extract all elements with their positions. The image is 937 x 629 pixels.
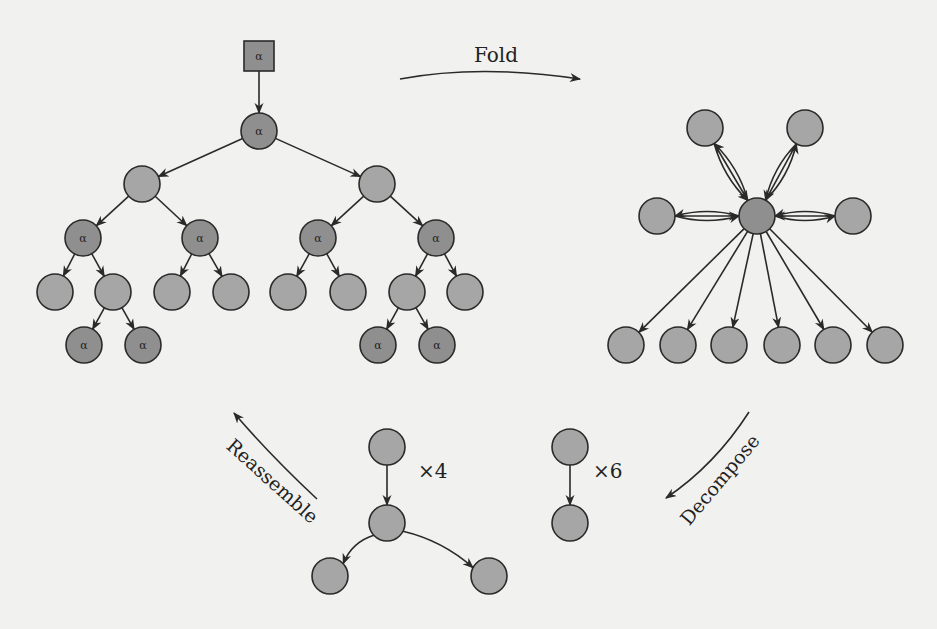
diagram-svg: αααααααααα Fold Reassemble Decompose ×4 … (0, 0, 937, 629)
tree-edge (416, 308, 428, 330)
tree-node: α (300, 220, 336, 256)
star-neighbor-node (639, 198, 675, 234)
tree-edge (155, 196, 187, 225)
alpha-label: α (79, 232, 87, 245)
multiplicity-x4-label: ×4 (418, 459, 447, 483)
tree-node (330, 274, 366, 310)
star-leaf-node (764, 327, 800, 363)
tree-edge (180, 254, 191, 276)
star-edge-out (770, 229, 873, 332)
star-edge-in (766, 144, 797, 200)
star-edge-out (687, 231, 747, 329)
fold-label: Fold (474, 43, 518, 67)
alpha-label: α (314, 232, 322, 245)
star-leaf-node (608, 327, 644, 363)
tree-node (124, 166, 160, 202)
tree-node: α (182, 220, 218, 256)
star-neighbor-node (835, 198, 871, 234)
tree-edge (297, 254, 310, 277)
tree-node (37, 274, 73, 310)
tree-node (447, 274, 483, 310)
tree-edge (93, 308, 105, 329)
decompose-label: Decompose (675, 430, 763, 529)
piece-edge (343, 535, 374, 563)
tree-node (213, 274, 249, 310)
alpha-label: α (433, 339, 441, 352)
tree-node: α (125, 327, 161, 363)
tree-edge (331, 196, 363, 226)
tree-node: α (360, 327, 396, 363)
tree-edge (96, 196, 128, 226)
star-center-node (739, 198, 775, 234)
tree-edge (63, 254, 74, 276)
alpha-label: α (432, 232, 440, 245)
tree-edge (275, 138, 360, 176)
tree-edge (122, 308, 134, 330)
multiplicity-x6-label: ×6 (593, 459, 622, 483)
decompose-arrow: Decompose (666, 412, 764, 529)
alpha-label: α (255, 50, 263, 63)
star-leaf-node (815, 327, 851, 363)
nodes-layer: αααααααααα (37, 41, 903, 594)
tree-node (359, 166, 395, 202)
reassemble-arrow: Reassemble (223, 413, 323, 527)
star-leaf-node (711, 327, 747, 363)
tree-edge (387, 308, 399, 329)
star-edge-in (714, 143, 748, 200)
tree-node: α (418, 220, 454, 256)
tree-node (389, 274, 425, 310)
star-edge-out (733, 234, 753, 328)
star-neighbor-node (687, 110, 723, 146)
reassemble-label: Reassemble (223, 434, 323, 527)
fold-arrow-icon (400, 72, 580, 80)
alpha-label: α (196, 232, 204, 245)
piece-edge (403, 531, 473, 567)
star-leaf-node (660, 327, 696, 363)
tree-edge (390, 196, 422, 226)
star-edge-out (639, 229, 744, 333)
alpha-label: α (80, 339, 88, 352)
star-leaf-node (867, 327, 903, 363)
piece-node (552, 429, 588, 465)
tree-edge (416, 254, 428, 276)
tree-node (154, 274, 190, 310)
alpha-label: α (139, 339, 147, 352)
tree-node (95, 274, 131, 310)
tree-root-square: α (244, 41, 274, 71)
alpha-label: α (374, 339, 382, 352)
tree-node: α (65, 220, 101, 256)
star-neighbor-node (787, 110, 823, 146)
tree-node: α (419, 327, 455, 363)
piece-node (369, 505, 405, 541)
figure-canvas: αααααααααα Fold Reassemble Decompose ×4 … (0, 0, 937, 629)
piece-node (471, 558, 507, 594)
fold-arrow: Fold (400, 43, 580, 79)
tree-edge (92, 254, 105, 277)
piece-node (552, 505, 588, 541)
piece-node (312, 558, 348, 594)
tree-node: α (241, 113, 277, 149)
tree-edge (209, 254, 222, 277)
tree-edge (327, 254, 340, 277)
piece-node (369, 429, 405, 465)
alpha-label: α (255, 125, 263, 138)
tree-node: α (66, 327, 102, 363)
star-edge-out (766, 232, 824, 330)
edges-layer (63, 71, 872, 568)
tree-edge (158, 138, 242, 176)
tree-node (270, 274, 306, 310)
tree-edge (445, 254, 457, 276)
